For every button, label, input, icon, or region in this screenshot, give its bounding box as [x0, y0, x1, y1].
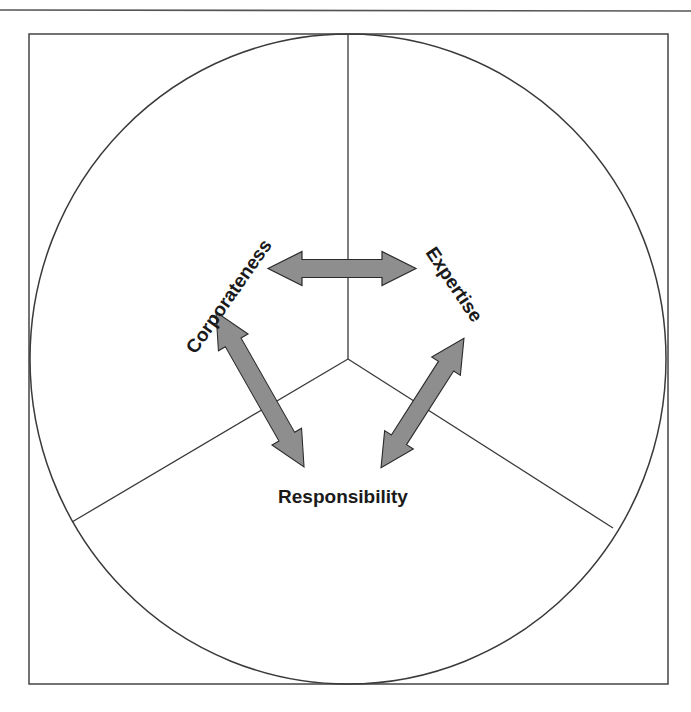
- concept-diagram: Corporateness Expertise Responsibility: [0, 0, 691, 712]
- arrow-corporateness-responsibility: [201, 304, 319, 476]
- arrow-expertise-responsibility: [367, 329, 479, 477]
- arrow-corporateness-expertise: [268, 252, 416, 286]
- top-rule: [0, 10, 691, 11]
- label-expertise: Expertise: [422, 243, 487, 326]
- label-responsibility: Responsibility: [278, 486, 408, 507]
- sector-dividers: [72, 34, 613, 528]
